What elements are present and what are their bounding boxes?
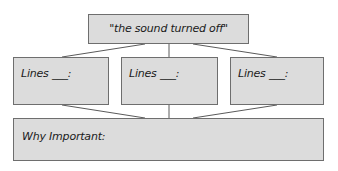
connector-left-to-bottom [62,105,145,118]
why-important-label: Why Important: [22,130,105,143]
connector-right-to-bottom [193,105,277,118]
connector-top-to-left [62,44,145,57]
lines-label: Lines ___: [21,67,71,80]
lines-box-left: Lines ___: [13,57,109,105]
lines-box-right: Lines ___: [230,57,324,105]
lines-label: Lines ___: [129,67,179,80]
connector-top-to-right [193,44,277,57]
quote-box: "the sound turned off" [88,14,249,44]
why-important-box: Why Important: [13,118,324,161]
lines-label: Lines ___: [238,67,288,80]
lines-box-middle: Lines ___: [121,57,218,105]
graphic-organizer: "the sound turned off" Lines ___: Lines … [0,0,338,171]
quote-text: "the sound turned off" [89,22,248,35]
